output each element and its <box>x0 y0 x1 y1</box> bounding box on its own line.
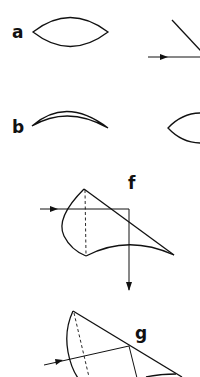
biconvex-lens-shape <box>33 18 108 47</box>
meniscus-lens-shape <box>32 111 108 128</box>
arrow-right-icon <box>50 206 58 212</box>
bottom-curve <box>86 245 174 256</box>
partial-panel-mid-right <box>168 113 200 143</box>
panel-label-a: a <box>12 22 23 42</box>
panel-label-b: b <box>12 117 24 137</box>
curved-surface <box>67 311 78 377</box>
curved-surface <box>62 189 86 256</box>
optics-diagram: a b f g <box>0 0 200 377</box>
panel-b: b <box>12 111 108 137</box>
panel-g: g <box>44 311 182 377</box>
panel-label-f: f <box>128 173 136 193</box>
dashed-axis-line <box>85 190 86 255</box>
hypotenuse-line <box>73 311 182 377</box>
dashed-axis-line <box>74 313 89 377</box>
arrow-right-icon <box>160 54 168 60</box>
surface-line <box>172 20 200 51</box>
panel-label-g: g <box>135 323 147 343</box>
panel-a: a <box>12 18 108 47</box>
partial-panel-top-right <box>148 20 200 60</box>
partial-lens-shape <box>168 113 200 143</box>
arrow-down-icon <box>126 282 132 291</box>
arrow-right-icon <box>55 359 63 365</box>
panel-f: f <box>40 173 174 291</box>
reflected-ray <box>129 346 137 377</box>
